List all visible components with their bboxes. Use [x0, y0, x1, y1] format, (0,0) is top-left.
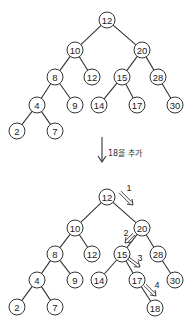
down-arrow-icon [98, 137, 106, 162]
tree-node: 8 [47, 69, 63, 85]
transition-label: 18을 추가 [108, 149, 143, 158]
node-value: 12 [87, 249, 98, 260]
node-value: 18 [150, 303, 161, 314]
tree-node: 17 [129, 272, 145, 288]
node-value: 7 [52, 126, 57, 137]
node-value: 15 [117, 249, 128, 260]
insertion-step-arrow: 1 [119, 183, 133, 205]
tree-node: 28 [150, 246, 166, 262]
node-value: 7 [52, 302, 57, 313]
tree-node: 18 [147, 300, 163, 316]
tree-node: 12 [84, 246, 100, 262]
tree-node: 2 [9, 123, 25, 139]
insertion-step-label: 2 [123, 228, 128, 238]
tree-node: 10 [67, 42, 83, 58]
tree-edge [42, 112, 51, 125]
tree-node: 2 [9, 299, 25, 315]
node-value: 4 [34, 100, 39, 111]
tree-edge [126, 84, 133, 98]
tree-edge [79, 57, 87, 70]
tree-node: 20 [134, 220, 150, 236]
tree-node: 30 [167, 97, 183, 113]
node-value: 30 [170, 275, 181, 286]
node-value: 28 [153, 249, 164, 260]
tree-edge [60, 56, 70, 70]
node-value: 14 [94, 275, 105, 286]
tree-edge [146, 235, 154, 247]
node-value: 17 [132, 275, 143, 286]
tree-node: 30 [167, 272, 183, 288]
node-value: 12 [102, 192, 113, 203]
tree-node: 10 [67, 220, 83, 236]
tree-edge [22, 111, 32, 124]
tree-node: 12 [99, 12, 115, 28]
insertion-step-label: 3 [137, 253, 142, 263]
node-value: 20 [137, 223, 148, 234]
tree-node: 17 [129, 97, 145, 113]
tree-edge [104, 83, 117, 99]
tree-node: 20 [134, 42, 150, 58]
insertion-step-arrow: 2 [123, 228, 134, 243]
tree-edge [81, 203, 102, 223]
tree-edge [162, 261, 170, 274]
tree-edge [79, 235, 87, 248]
node-value: 12 [87, 72, 98, 83]
tree-edge [146, 57, 154, 70]
tree-before: 12102081215284914173027 [9, 12, 183, 139]
node-value: 17 [132, 100, 143, 111]
tree-edge [60, 84, 71, 99]
node-value: 15 [117, 72, 128, 83]
node-value: 20 [137, 45, 148, 56]
tree-node: 28 [150, 69, 166, 85]
node-value: 12 [102, 15, 113, 26]
node-value: 2 [14, 126, 19, 137]
tree-node: 7 [47, 299, 63, 315]
node-value: 28 [153, 72, 164, 83]
tree-node: 4 [29, 272, 45, 288]
tree-edge [22, 286, 32, 300]
tree-edge [81, 25, 101, 44]
bst-insertion-diagram: 12102081215284914173027 18을 추가 121020812… [0, 0, 194, 322]
tree-node: 9 [67, 272, 83, 288]
tree-node: 9 [67, 97, 83, 113]
node-value: 8 [52, 72, 57, 83]
tree-node: 8 [47, 246, 63, 262]
node-value: 10 [70, 45, 81, 56]
tree-node: 7 [47, 123, 63, 139]
tree-edge [60, 234, 70, 247]
tree-node: 15 [114, 69, 130, 85]
node-value: 8 [52, 249, 57, 260]
tree-edge [41, 84, 50, 99]
tree-edge [127, 56, 137, 70]
node-value: 9 [72, 100, 77, 111]
tree-edge [41, 287, 50, 301]
tree-edge [104, 260, 116, 274]
tree-node: 4 [29, 97, 45, 113]
tree-edge [141, 287, 150, 302]
tree-node: 14 [91, 272, 107, 288]
tree-edge [162, 84, 171, 98]
node-value: 14 [94, 100, 105, 111]
insertion-step-label: 4 [154, 280, 159, 290]
node-value: 9 [72, 275, 77, 286]
insertion-step-label: 1 [126, 183, 131, 193]
node-value: 30 [170, 100, 181, 111]
node-value: 4 [34, 275, 39, 286]
tree-node: 12 [84, 69, 100, 85]
tree-node: 14 [91, 97, 107, 113]
tree-edge [60, 260, 70, 273]
tree-after: 12102081215284914173027181234 [9, 183, 183, 316]
tree-edge [113, 25, 136, 45]
transition-arrow-group: 18을 추가 [98, 137, 143, 162]
node-value: 10 [70, 223, 81, 234]
tree-node: 12 [99, 189, 115, 205]
tree-edge [42, 261, 51, 274]
node-value: 2 [14, 302, 19, 313]
